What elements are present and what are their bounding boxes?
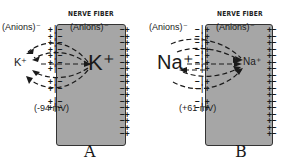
diffusion-arrows [0,0,143,164]
diffusion-arrows [143,0,286,164]
panel-a: NERVE FIBER (Anions)⁻ (Anions)⁻ K⁺ K⁺ (-… [0,0,143,164]
panel-b: NERVE FIBER (Anions)⁻ (Anions)⁻ Na⁺ Na⁺ … [143,0,286,164]
